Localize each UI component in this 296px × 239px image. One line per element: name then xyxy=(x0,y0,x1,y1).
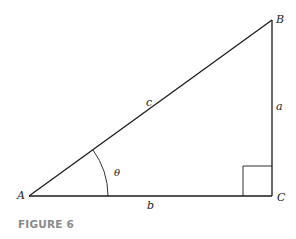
side-label-b: b xyxy=(147,200,154,211)
vertex-label-a: A xyxy=(17,190,25,201)
angle-label-theta: θ xyxy=(114,168,120,178)
angle-theta-arc xyxy=(93,150,108,196)
side-label-c: c xyxy=(146,97,152,108)
figure-caption: FIGURE 6 xyxy=(18,218,74,230)
right-triangle-figure: A B C c a b θ FIGURE 6 xyxy=(0,0,296,239)
side-label-a: a xyxy=(276,101,283,112)
vertex-label-c: C xyxy=(277,192,285,203)
vertex-label-b: B xyxy=(276,14,284,25)
right-angle-marker xyxy=(243,166,272,196)
